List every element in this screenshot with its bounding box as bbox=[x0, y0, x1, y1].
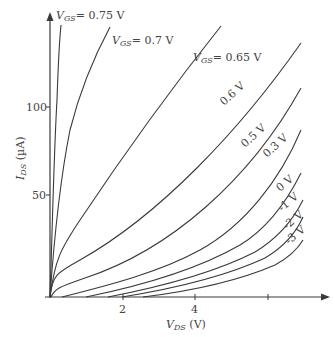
x-axis-title: VDS (V) bbox=[166, 318, 206, 332]
label-vgs-0.7: VGS= 0.7 V bbox=[112, 34, 175, 48]
x-tick-label-2: 2 bbox=[119, 303, 126, 316]
x-tick-label-4: 4 bbox=[191, 303, 198, 316]
y-tick-label-100: 100 bbox=[26, 101, 47, 114]
y-tick-label-50: 50 bbox=[32, 189, 46, 202]
curve-vgs-0.5 bbox=[51, 88, 301, 297]
x-axis-arrow-icon bbox=[321, 294, 330, 301]
label-vgs-0.65: VGS= 0.65 V bbox=[193, 51, 263, 65]
iv-characteristics-chart: 2 4 100 50 VDS (V) IDS (µA) VGS= 0.75 V … bbox=[0, 0, 335, 337]
label-vgs-0.6: 0.6 V bbox=[217, 79, 248, 109]
label-vgs-0.3: 0.3 V bbox=[260, 131, 291, 161]
y-axis-arrow-icon bbox=[47, 12, 54, 21]
label-vgs-0.75: VGS= 0.75 V bbox=[56, 9, 126, 23]
y-axis-title: IDS (µA) bbox=[14, 137, 28, 181]
curve-vgs-m1 bbox=[108, 200, 303, 297]
